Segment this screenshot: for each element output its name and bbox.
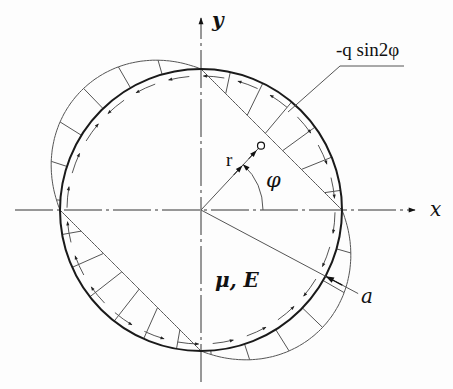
angle-arc <box>243 165 263 210</box>
load-hatch-line <box>323 281 344 293</box>
load-hatch-line <box>302 308 322 327</box>
y-axis-label: y <box>212 10 224 30</box>
shear-arrow <box>67 187 69 208</box>
shear-arrow <box>144 331 164 338</box>
radius-r-arrow <box>249 151 257 159</box>
load-hatch-line <box>118 67 130 88</box>
load-expression-label: -q sin2φ <box>336 40 399 59</box>
radius-variable-label: r <box>226 150 232 169</box>
shear-arrow <box>169 77 190 81</box>
shear-arrow <box>333 212 335 233</box>
load-hatch-line <box>247 83 263 115</box>
load-hatch-line <box>301 157 331 169</box>
point-marker <box>258 142 265 149</box>
diagram-canvas: y x r φ μ, E a -q sin2φ <box>0 0 453 389</box>
load-hatch-line <box>226 72 231 94</box>
load-hatch-line <box>84 88 103 108</box>
angle-label: φ <box>266 170 281 191</box>
shear-arrow <box>203 76 224 78</box>
load-hatch-line <box>90 272 122 297</box>
load-hatch-line <box>60 122 81 135</box>
load-hatch-line <box>337 249 351 253</box>
axes <box>15 18 415 382</box>
shear-arrow <box>331 178 335 199</box>
load-hatch-line <box>265 102 291 133</box>
x-axis-label: x <box>430 199 441 219</box>
radius-constant-label: a <box>361 286 373 306</box>
load-hatch-line <box>62 231 81 234</box>
material-properties-label: μ, E <box>215 270 259 290</box>
load-hatch-line <box>158 60 162 74</box>
load-hatch-line <box>283 127 315 151</box>
load-leader-line <box>288 66 404 112</box>
load-hatch-line <box>245 344 250 360</box>
load-hatch-line <box>177 330 180 349</box>
shear-arrow <box>247 327 266 336</box>
radius-r-arrow <box>234 166 242 175</box>
load-hatch-line <box>51 161 67 166</box>
shear-arrow <box>72 153 79 173</box>
load-hatch-line <box>276 330 289 351</box>
load-hatch-line <box>325 190 341 192</box>
shear-arrow <box>238 81 258 88</box>
load-hatch-line <box>114 289 139 321</box>
shear-arrow <box>136 84 155 93</box>
shear-arrow <box>322 247 329 267</box>
shear-arrow <box>68 222 72 243</box>
shear-arrow <box>213 340 234 344</box>
shear-arrow <box>178 342 199 344</box>
